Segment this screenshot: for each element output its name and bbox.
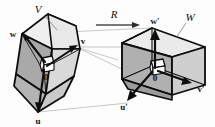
label-map-R: R <box>110 8 118 20</box>
figure-canvas: V W R w v u 0 w′ v′ u′ 0 <box>0 0 215 127</box>
label-origin-V: 0 <box>44 72 49 82</box>
label-vector-w: w <box>10 29 17 39</box>
label-vector-v: v <box>81 36 86 46</box>
label-vector-v-prime: v′ <box>197 84 204 94</box>
label-vector-w-prime: w′ <box>150 16 159 26</box>
diagram-svg: V W R w v u 0 w′ v′ u′ 0 <box>0 0 215 127</box>
label-space-W: W <box>185 11 195 23</box>
label-vector-u: u <box>35 116 40 126</box>
label-vector-u-prime: u′ <box>120 102 128 112</box>
label-origin-W: 0 <box>153 73 158 83</box>
